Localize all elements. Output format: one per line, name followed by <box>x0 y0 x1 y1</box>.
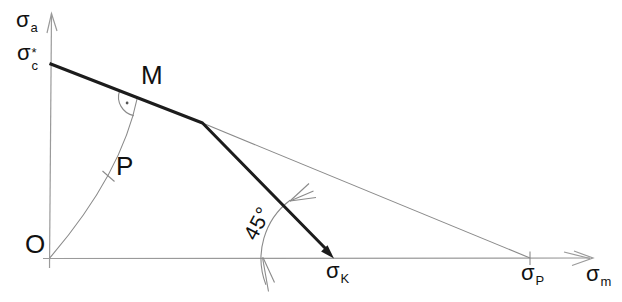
sigma-P-base: σ <box>521 260 535 285</box>
sigma-c-base: σ <box>17 40 31 65</box>
sigma-P-label: σP <box>521 262 544 287</box>
y-axis-sub: a <box>31 20 38 35</box>
sigma-c-star-label: σ*c <box>17 42 38 75</box>
x-axis-sigma: σ <box>586 261 600 286</box>
limit-lines <box>50 64 335 259</box>
x-axis-sub: m <box>601 274 612 289</box>
diagram-drawing <box>0 0 622 302</box>
origin-label: O <box>25 231 45 257</box>
axes <box>43 14 593 269</box>
sigma-K-base: σ <box>326 258 340 283</box>
fatigue-strength-diagram: σa σ*c O M P 45° σK σP σm <box>0 0 622 302</box>
construction-lines <box>50 91 530 292</box>
sigma-c-sub: c <box>32 59 39 72</box>
y-axis-label: σa <box>16 9 38 34</box>
y-axis <box>50 14 52 269</box>
x-axis <box>43 258 590 259</box>
angle-arc-upper-arrow-ticks <box>290 184 316 202</box>
y-axis-sigma: σ <box>16 7 30 32</box>
point-P-cross-marker <box>103 171 115 182</box>
sigma-P-sub: P <box>536 273 545 288</box>
x-axis-label: σm <box>586 263 611 288</box>
point-P-label: P <box>116 153 133 179</box>
sigma-K-label: σK <box>326 260 349 285</box>
sigma-K-sub: K <box>341 271 350 286</box>
angle-arc-lower-arrow-ticks <box>263 258 275 292</box>
right-angle-dot <box>126 102 129 105</box>
point-M-label: M <box>141 62 163 88</box>
